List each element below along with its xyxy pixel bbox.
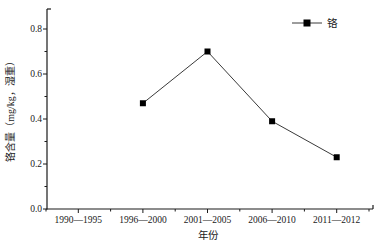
data-point-marker xyxy=(140,100,146,106)
data-point-marker xyxy=(334,154,340,160)
x-tick-label: 1996—2000 xyxy=(110,214,176,226)
y-tick-label: 0.4 xyxy=(18,113,42,125)
series-line xyxy=(143,52,337,158)
x-tick-label: 2001—2005 xyxy=(175,214,241,226)
x-axis-title: 年份 xyxy=(168,229,248,242)
chromium-line-chart: 铬含量（mg/kg，湿重） 年份 铬 0.00.20.40.60.81990—1… xyxy=(0,0,379,252)
y-tick-label: 0.0 xyxy=(18,203,42,215)
x-tick-label: 1990—1995 xyxy=(45,214,111,226)
legend-label: 铬 xyxy=(327,17,337,30)
y-tick-label: 0.2 xyxy=(18,158,42,170)
data-point-marker xyxy=(269,118,275,124)
x-tick-label: 2011—2012 xyxy=(304,214,370,226)
y-tick-label: 0.6 xyxy=(18,68,42,80)
x-tick-label: 2006—2010 xyxy=(239,214,305,226)
data-point-marker xyxy=(205,49,211,55)
y-axis-title: 铬含量（mg/kg，湿重） xyxy=(3,29,19,189)
y-tick-label: 0.8 xyxy=(18,23,42,35)
legend-marker xyxy=(304,20,311,27)
